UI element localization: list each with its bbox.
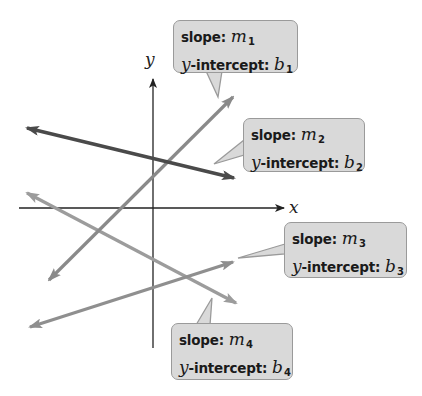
- callout-2-tail: [214, 140, 244, 164]
- line-4: [27, 193, 236, 303]
- callout-line-3: slope: m3 y-intercept: b3: [284, 222, 407, 278]
- slope-label: slope: m3: [292, 227, 400, 255]
- intercept-label: y-intercept: b2: [251, 151, 358, 179]
- x-axis-label: x: [289, 197, 299, 217]
- slope-label: slope: m1: [181, 25, 291, 53]
- intercept-label: y-intercept: b4: [179, 356, 286, 384]
- callout-3-tail: [238, 244, 285, 258]
- slope-label: slope: m4: [179, 328, 286, 356]
- callout-line-4: slope: m4 y-intercept: b4: [171, 323, 293, 380]
- y-axis-label: y: [145, 49, 155, 69]
- callout-line-2: slope: m2 y-intercept: b2: [243, 118, 365, 172]
- coordinate-plane-diagram: y x slope: m1 y-intercept: b1 slope: m2 …: [0, 0, 422, 396]
- slope-label: slope: m2: [251, 123, 358, 151]
- line-2: [27, 128, 234, 178]
- intercept-label: y-intercept: b1: [181, 53, 291, 81]
- callout-line-1: slope: m1 y-intercept: b1: [173, 20, 298, 73]
- callout-4-tail: [196, 298, 212, 325]
- intercept-label: y-intercept: b3: [292, 255, 400, 283]
